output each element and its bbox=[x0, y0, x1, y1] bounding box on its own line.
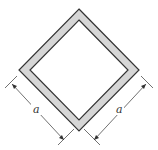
right-dimension-label: a bbox=[116, 103, 123, 116]
square-tube-diagram: a a bbox=[0, 0, 158, 150]
left-dimension-label: a bbox=[33, 103, 40, 116]
